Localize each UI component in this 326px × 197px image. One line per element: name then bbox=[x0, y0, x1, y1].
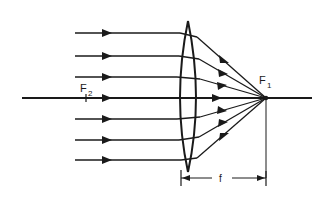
refracted-ray bbox=[200, 98, 266, 117]
biconvex-lens bbox=[180, 21, 196, 172]
refracted-ray bbox=[197, 98, 266, 158]
focal-point-dot bbox=[264, 96, 268, 100]
focal-point-f2-label: F bbox=[80, 82, 87, 94]
incoming-ray-arrow-icon bbox=[102, 73, 112, 81]
refracted-rays-group bbox=[197, 37, 266, 158]
lens-ray-diagram: F 2 F 1 f bbox=[0, 0, 326, 197]
dimension-arrow-right-icon bbox=[257, 175, 265, 181]
dimension-arrow-left-icon bbox=[182, 175, 190, 181]
ray-diagram-canvas: F 2 F 1 f bbox=[0, 0, 326, 197]
refracted-ray-arrow-icon bbox=[218, 119, 228, 127]
internal-ray bbox=[181, 158, 197, 160]
focal-length-dimension bbox=[181, 170, 266, 186]
refracted-ray bbox=[199, 98, 266, 137]
incoming-ray-arrow-icon bbox=[102, 52, 112, 60]
incoming-ray-arrow-icon bbox=[102, 29, 112, 37]
lens-left-surface bbox=[180, 21, 188, 172]
refracted-ray-arrow-icon bbox=[219, 55, 229, 63]
internal-ray bbox=[180, 33, 197, 37]
refracted-ray-arrow-icon bbox=[219, 133, 229, 141]
refracted-ray bbox=[199, 59, 266, 98]
lens-right-surface bbox=[188, 21, 196, 172]
refracted-ray-arrow-icon bbox=[212, 94, 222, 102]
incoming-ray-arrow-icon bbox=[102, 94, 112, 102]
focal-length-label: f bbox=[219, 173, 222, 184]
focal-point-f1-marker bbox=[264, 96, 268, 100]
incoming-ray-arrow-icon bbox=[102, 115, 112, 123]
focal-point-f1-label: F bbox=[259, 74, 266, 86]
refracted-ray-arrow-icon bbox=[218, 69, 228, 77]
refracted-ray bbox=[197, 37, 266, 98]
incoming-ray-arrow-icon bbox=[102, 136, 112, 144]
incoming-ray-arrow-icon bbox=[102, 156, 112, 164]
focal-point-f2-subscript: 2 bbox=[88, 89, 93, 98]
focal-point-f1-subscript: 1 bbox=[267, 81, 272, 90]
